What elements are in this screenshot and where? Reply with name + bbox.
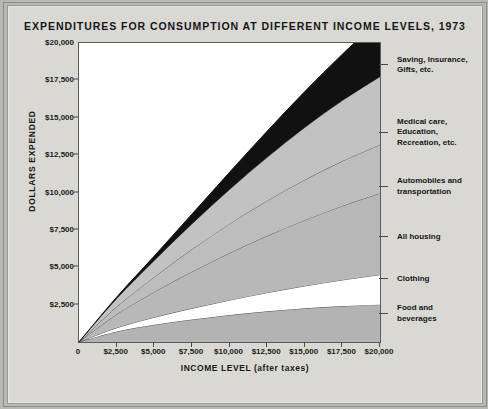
x-tick-mark — [379, 342, 380, 347]
legend-label-3: Automobiles and transportation — [397, 176, 462, 197]
x-tick-mark — [229, 342, 230, 347]
x-tick-mark — [341, 342, 342, 347]
x-axis-title: INCOME LEVEL (after taxes) — [8, 363, 482, 373]
chart-legend: Saving, Insurance, Gifts, etc.Medical ca… — [379, 42, 482, 342]
x-tick-label: $7,500 — [179, 347, 203, 356]
x-tick-label: $12,500 — [252, 347, 281, 356]
legend-tick-4 — [379, 236, 388, 237]
plot-area — [78, 42, 381, 343]
x-tick-label: $17,500 — [327, 347, 356, 356]
x-tick-mark — [304, 342, 305, 347]
x-axis-tick-labels: 0$2,500$5,000$7,500$10,000$12,500$15,000… — [8, 347, 482, 363]
x-tick-label: $5,000 — [141, 347, 165, 356]
legend-label-2: Medical care, Education, Recreation, etc… — [397, 117, 457, 149]
x-tick-label: $15,000 — [289, 347, 318, 356]
stacked-area-svg — [79, 43, 380, 342]
legend-label-5: Clothing — [397, 274, 429, 285]
legend-tick-5 — [379, 278, 388, 279]
legend-label-1: Saving, Insurance, Gifts, etc. — [397, 55, 468, 76]
legend-tick-3 — [379, 186, 388, 187]
legend-tick-1 — [379, 64, 388, 65]
y-axis-ticks — [8, 42, 80, 342]
x-tick-label: $10,000 — [214, 347, 243, 356]
x-tick-label: $2,500 — [103, 347, 127, 356]
chart-frame: EXPENDITURES FOR CONSUMPTION AT DIFFEREN… — [7, 5, 483, 404]
x-tick-label: $20,000 — [365, 347, 394, 356]
x-tick-mark — [266, 342, 267, 347]
x-tick-label: 0 — [76, 347, 80, 356]
legend-tick-2 — [379, 132, 388, 133]
legend-tick-6 — [379, 313, 388, 314]
legend-label-4: All housing — [397, 232, 441, 243]
x-tick-mark — [153, 342, 154, 347]
chart-title: EXPENDITURES FOR CONSUMPTION AT DIFFEREN… — [8, 20, 482, 32]
x-tick-mark — [191, 342, 192, 347]
legend-label-6: Food and beverages — [397, 303, 437, 324]
x-tick-mark — [116, 342, 117, 347]
